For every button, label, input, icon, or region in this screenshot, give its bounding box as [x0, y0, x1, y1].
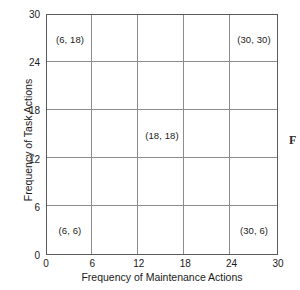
data-point-label: (6, 18): [56, 33, 84, 44]
data-point-label: (18, 18): [145, 129, 179, 140]
x-tick-label: 12: [133, 258, 144, 269]
data-point-label: (30, 6): [240, 225, 268, 236]
data-point-label: (6, 6): [59, 225, 82, 236]
y-tick-label: 0: [34, 250, 40, 261]
x-axis-label: Frequency of Maintenance Actions: [46, 271, 278, 283]
gridline-vertical: [229, 15, 230, 254]
x-tick-label: 30: [272, 258, 283, 269]
data-point-label: (30, 30): [237, 33, 271, 44]
x-tick-label: 18: [180, 258, 191, 269]
chart-figure: (6, 18) (30, 30) (18, 18) (6, 6) (30, 6)…: [0, 0, 300, 290]
gridline-vertical: [91, 15, 92, 254]
y-axis-label: Frequency of Task Actions: [22, 50, 34, 230]
x-tick-label: 6: [90, 258, 96, 269]
y-tick-label: 30: [29, 9, 40, 20]
x-tick-label: 24: [226, 258, 237, 269]
gridline-vertical: [183, 15, 184, 254]
gridline-horizontal: [47, 109, 277, 110]
gridline-vertical: [137, 15, 138, 254]
caption-fragment: F: [289, 133, 300, 148]
gridline-horizontal: [47, 205, 277, 206]
gridline-horizontal: [47, 157, 277, 158]
y-tick-label: 6: [34, 201, 40, 212]
plot-area: (6, 18) (30, 30) (18, 18) (6, 6) (30, 6): [46, 14, 278, 255]
gridline-horizontal: [47, 61, 277, 62]
x-tick-label: 0: [43, 258, 49, 269]
